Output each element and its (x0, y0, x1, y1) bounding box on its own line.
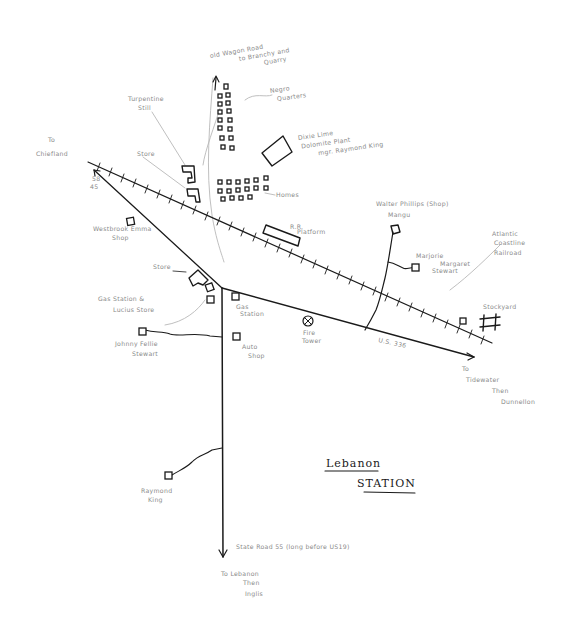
johnny-fellie-house (139, 328, 146, 335)
title-station: STATION (357, 477, 416, 490)
label-johnny-fellie-stewart: Johnny Fellie Stewart (114, 340, 160, 357)
gas-station-leader-line (165, 300, 205, 325)
turpentine-still-building (182, 166, 195, 183)
dolomite-plant-building (262, 136, 292, 166)
label-gas-station-lucius: Gas Station & Lucius Store (98, 295, 154, 313)
map-title: Lebanon STATION (325, 457, 416, 493)
fire-tower-icon (303, 316, 313, 326)
label-state-road-55: State Road 55 (long before US19) (236, 543, 350, 551)
creek (365, 232, 413, 330)
label-raymond-king: Raymond King (141, 487, 175, 504)
title-underline-2 (364, 492, 415, 493)
label-dixie-lime: Dixie Lime Dolomite Plant mgr. Raymond K… (297, 122, 384, 159)
store-leader-line (143, 157, 185, 188)
marjorie-building (412, 264, 419, 271)
label-stockyard: Stockyard (483, 303, 516, 311)
title-lebanon: Lebanon (326, 457, 381, 470)
wagon-road-branch (203, 108, 220, 165)
label-westbrook-emma: Westbrook Emma Shop (93, 225, 154, 242)
small-building (205, 283, 214, 292)
label-rr-platform: R.R. Platform (290, 223, 326, 235)
label-to-tidewater: To Tidewater Then Dunnellon (461, 365, 535, 405)
state-road-55 (219, 288, 227, 557)
label-atlantic-coastline: Atlantic Coastline Railroad (492, 230, 528, 256)
gas-station-lucius-building (207, 296, 214, 303)
label-mangu: Mangu (388, 211, 410, 219)
label-auto-shop: Auto Shop (242, 343, 265, 360)
lebanon-station-map: old Wagon Road to Branchy and Quarry Neg… (0, 0, 571, 626)
mangu-building (391, 225, 400, 234)
label-walter-phillips: Walter Phillips (Shop) (376, 200, 449, 208)
label-road-58: 58 45 (90, 175, 103, 190)
label-store-mid: Store (153, 263, 171, 270)
homes-leader (265, 193, 275, 195)
johnny-fellie-path (145, 330, 222, 337)
negro-quarters-leader (245, 95, 272, 100)
label-fire-tower: Fire Tower (301, 329, 322, 344)
label-margaret-stewart: Margaret Stewart (432, 260, 473, 274)
store-building-top (187, 189, 200, 202)
negro-quarters-houses (218, 84, 234, 150)
store-leader (173, 271, 186, 272)
label-homes: Homes (276, 191, 299, 198)
label-marjorie: Marjorie (416, 252, 444, 260)
auto-shop-building (233, 333, 240, 340)
old-wagon-road-arrow (213, 76, 219, 90)
label-to-lebanon: To Lebanon Then Inglis (220, 570, 263, 598)
turpentine-leader-line (152, 112, 185, 165)
stockyard-icon (480, 314, 500, 331)
label-store-top: Store (137, 150, 155, 157)
label-gas-station: Gas Station (236, 303, 264, 317)
label-old-wagon-road: old Wagon Road to Branchy and Quarry (209, 38, 294, 76)
raymond-king-path (172, 448, 222, 475)
label-negro-quarters: Negro Quarters (269, 82, 306, 103)
depot-building (460, 318, 466, 324)
homes-houses (218, 176, 268, 201)
gas-station-building (232, 293, 239, 300)
label-turpentine-still: Turpentine Still (127, 95, 166, 111)
raymond-king-house (165, 472, 172, 479)
label-to-chiefland: To Chiefland (36, 136, 68, 157)
